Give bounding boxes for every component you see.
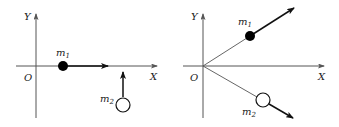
mass1-ball: [58, 61, 68, 71]
m2-velocity-arrow: [269, 104, 293, 118]
collision-diagrams: Y X O m1 m2 Y X O m1 m2: [0, 0, 339, 127]
y-axis-label: Y: [191, 11, 199, 22]
mass2-ball: [116, 98, 130, 112]
m2-path-line: [203, 66, 257, 97]
mass1-label: m1: [238, 16, 252, 29]
origin-label: O: [190, 72, 198, 83]
x-axis-label: X: [317, 71, 326, 82]
mass1-ball: [245, 31, 255, 41]
mass2-label: m2: [100, 93, 114, 106]
mass1-label: m1: [56, 47, 70, 60]
y-axis-label: Y: [24, 11, 32, 22]
m1-velocity-arrow: [250, 8, 294, 36]
m1-path-line: [203, 36, 250, 66]
x-axis-label: X: [149, 71, 158, 82]
origin-label: O: [24, 72, 32, 83]
before-collision-diagram: Y X O m1 m2: [16, 11, 158, 118]
after-collision-diagram: Y X O m1 m2: [183, 8, 326, 119]
mass2-ball: [256, 93, 270, 107]
mass2-label: m2: [242, 106, 256, 119]
